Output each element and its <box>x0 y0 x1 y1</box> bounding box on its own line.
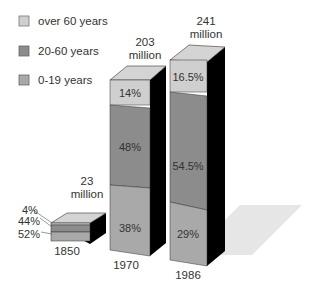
bar-1986-total-unit: million <box>190 28 223 40</box>
bar-1986-label-over-60: 16.5% <box>172 71 203 83</box>
bar-1986: 16.5% 54.5% 29% 241 million 1986 <box>170 15 225 281</box>
bar-1986-total-value: 241 <box>196 15 215 27</box>
bar-1986-label-20-60: 54.5% <box>172 160 203 172</box>
bar-1850-total-value: 23 <box>81 175 94 187</box>
bar-1850-total-unit: million <box>71 188 104 200</box>
bar-1850-label-0-19: 52% <box>18 228 40 240</box>
bar-1970-label-20-60: 48% <box>119 141 141 153</box>
population-age-chart: over 60 years 20-60 years 0-19 years 4% … <box>0 0 311 291</box>
bar-1970: 14% 48% 38% 203 million 1970 <box>110 36 166 271</box>
bar-1970-total-value: 203 <box>135 36 154 48</box>
legend-label-20-60: 20-60 years <box>38 45 99 57</box>
bar-1850-year: 1850 <box>54 245 80 257</box>
legend-label-over-60: over 60 years <box>38 15 108 27</box>
bar-1850-label-20-60: 44% <box>18 215 40 227</box>
bar-1970-total-unit: million <box>129 49 162 61</box>
bar-1970-label-0-19: 38% <box>119 222 141 234</box>
bar-1986-label-0-19: 29% <box>177 228 199 240</box>
legend-swatch-0-19 <box>19 75 29 85</box>
bar-1986-year: 1986 <box>175 269 201 281</box>
legend-label-0-19: 0-19 years <box>38 74 93 86</box>
legend-swatch-20-60 <box>19 46 29 56</box>
bar-1970-year: 1970 <box>113 259 139 271</box>
bar-1970-label-over-60: 14% <box>119 87 141 99</box>
chart-canvas: over 60 years 20-60 years 0-19 years 4% … <box>0 0 311 291</box>
legend-swatch-over-60 <box>19 16 29 26</box>
bar-1850: 4% 44% 52% 23 million 1850 <box>18 175 106 257</box>
legend: over 60 years 20-60 years 0-19 years <box>19 15 108 86</box>
